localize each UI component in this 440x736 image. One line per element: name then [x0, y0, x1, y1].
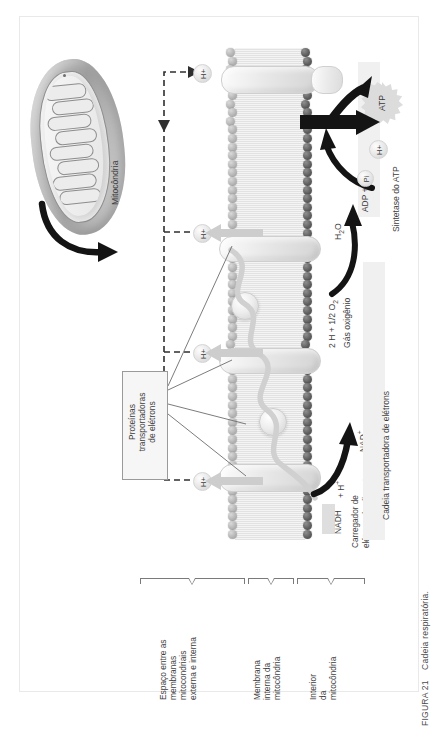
organelle-label: Mitocôndria — [110, 161, 120, 205]
nadh-label: NADH — [334, 510, 344, 534]
matrix-line1: Interior — [308, 657, 318, 700]
phospholipid-head — [228, 108, 237, 117]
electron-carrier-protein-box: Proteínas transportadoras de elétrons — [122, 371, 168, 480]
compartment-label-intermembrane: Espaço entre as membranas mitocondriais … — [158, 637, 198, 700]
phospholipid-head — [228, 151, 237, 160]
food-carrier-caption-line1: Carregador de — [351, 495, 361, 548]
oxygen-gas-label: Gás oxigênio — [342, 298, 352, 348]
phospholipid-head — [228, 530, 237, 539]
compartment-label-inner-membrane: Membrana interna da mitocôndria — [252, 657, 282, 700]
protein-box-line1: Proteínas — [127, 372, 137, 472]
mitochondrion-pointer-arrow — [36, 200, 126, 270]
figure-caption: FIGURA 21 Cadeia respiratória. — [420, 591, 430, 726]
phosphate-label: Pi — [361, 175, 370, 181]
phospholipid-head — [301, 48, 310, 57]
intermembrane-line3: mitocondriais — [178, 637, 188, 700]
phospholipid-head — [226, 48, 235, 57]
phosphate-marker: Pi — [357, 170, 374, 187]
bracket-matrix-tick — [327, 578, 335, 585]
protein-box-line2: transportadoras — [137, 372, 147, 472]
proton-marker-top-label: H+ — [198, 68, 207, 78]
bracket-inner-membrane-tick — [267, 578, 275, 585]
phospholipid-head — [228, 134, 237, 143]
compartment-label-matrix: Interior da mitocôndria — [308, 657, 338, 700]
intermembrane-line4: externa e interna — [188, 637, 198, 700]
atp-synthase-proton-marker: H+ — [369, 140, 388, 159]
phospholipid-head — [303, 521, 312, 530]
atp-synthase-section-label: Sintetase do ATP — [391, 166, 401, 232]
nadh-text: NADH — [333, 510, 343, 534]
bracket-intermembrane-tick — [188, 578, 196, 585]
matrix-line2: da — [318, 657, 328, 700]
intermembrane-line2: membranas — [168, 637, 178, 700]
inner-membrane-line1: Membrana — [252, 657, 262, 700]
phospholipid-head — [303, 530, 312, 539]
inner-membrane-line2: interna da — [262, 657, 272, 700]
phospholipid-head — [303, 177, 312, 186]
protein-box-leader-lines — [160, 238, 250, 488]
atp-synthase-proton-label: H+ — [374, 144, 383, 154]
protein-box-line3: de elétrons — [147, 372, 157, 472]
phospholipid-head — [303, 151, 312, 160]
intermembrane-line1: Espaço entre as — [158, 637, 168, 700]
atp-synthase-fo-unit — [221, 66, 319, 94]
proton-marker-top: H+ — [193, 64, 212, 83]
matrix-line3: mitocôndria — [328, 657, 338, 700]
nadh-proton-label: + H+ — [334, 481, 347, 498]
figure-caption-number: FIGURA 21 — [420, 680, 430, 726]
figure-caption-text: Cadeia respiratória. — [420, 591, 430, 670]
phospholipid-head — [228, 521, 237, 530]
oxygen-reactants-label: 2 H + 1/2 O2 — [327, 300, 339, 348]
electron-chain-section-label: Cadeia transportadora de elétrons — [381, 391, 391, 520]
inner-membrane-line3: mitocôndria — [272, 657, 282, 700]
phospholipid-head — [228, 177, 237, 186]
water-label: H2O — [333, 223, 345, 240]
